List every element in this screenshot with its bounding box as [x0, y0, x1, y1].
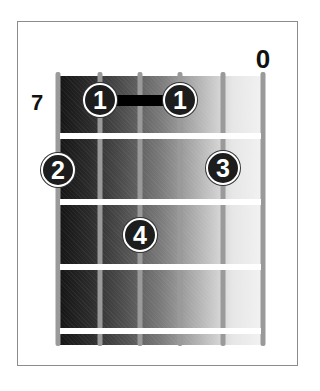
string-6	[261, 72, 266, 346]
fret-line-2	[60, 199, 261, 205]
fret-line-3	[60, 264, 261, 270]
finger-marker-1a: 1	[83, 83, 117, 117]
fretboard	[58, 76, 263, 345]
finger-marker-1b: 1	[163, 83, 197, 117]
finger-marker-2: 2	[41, 153, 75, 187]
open-string-marker: 0	[256, 44, 270, 75]
finger-marker-3: 3	[206, 151, 240, 185]
fretboard-texture	[58, 76, 263, 345]
string-3	[138, 72, 143, 346]
fret-line-1	[60, 133, 261, 139]
string-5	[221, 72, 226, 346]
start-fret-label: 7	[31, 90, 43, 116]
finger-marker-4: 4	[123, 218, 157, 252]
fret-line-4	[60, 328, 261, 334]
string-1	[56, 72, 61, 346]
